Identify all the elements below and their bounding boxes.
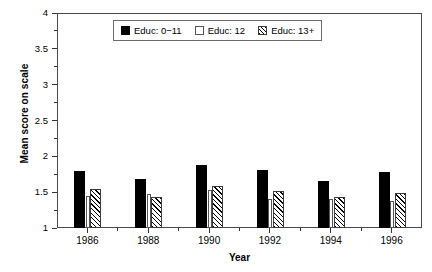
bars-layer	[57, 13, 422, 228]
bar	[90, 189, 101, 228]
bar	[74, 171, 85, 228]
legend-label: Educ: 12	[208, 25, 246, 36]
solid-black-swatch	[121, 26, 130, 35]
bar	[379, 172, 390, 228]
legend-label: Educ: 13+	[271, 25, 314, 36]
legend-entry: Educ: 12	[195, 25, 246, 36]
x-tick-minor-mark	[178, 228, 179, 231]
legend-label: Educ: 0−11	[134, 25, 182, 36]
bar	[147, 194, 151, 228]
x-tick-mark	[148, 228, 149, 233]
x-tick-mark	[269, 228, 270, 233]
bar	[196, 165, 207, 228]
bar	[135, 179, 146, 228]
legend-entry: Educ: 13+	[258, 25, 314, 36]
bar	[86, 196, 90, 228]
x-tick-label: 1988	[118, 235, 178, 247]
y-tick-label: 2	[10, 150, 48, 161]
bar	[273, 191, 284, 228]
x-tick-label: 1996	[362, 235, 422, 247]
x-tick-label: 1986	[57, 235, 117, 247]
chart-legend: Educ: 0−11Educ: 12Educ: 13+	[113, 20, 322, 41]
bar-chart-figure: Mean score on scale 11.522.533.54 198619…	[0, 0, 432, 272]
x-tick-minor-mark	[239, 228, 240, 231]
y-tick-label: 1	[10, 222, 48, 233]
bar	[208, 190, 212, 228]
x-tick-mark	[391, 228, 392, 233]
y-tick-label: 4	[10, 7, 48, 18]
hatched-swatch	[258, 26, 267, 35]
y-tick-label: 1.5	[10, 186, 48, 197]
bar	[268, 199, 272, 228]
x-tick-minor-mark	[300, 228, 301, 231]
y-tick-label: 3.5	[10, 43, 48, 54]
x-tick-label: 1992	[240, 235, 300, 247]
open-white-swatch	[195, 26, 204, 35]
bar	[395, 193, 406, 228]
x-tick-mark	[330, 228, 331, 233]
bar	[334, 197, 345, 228]
x-tick-mark	[87, 228, 88, 233]
x-tick-mark	[209, 228, 210, 233]
bar	[318, 181, 329, 228]
bar	[212, 186, 223, 228]
x-tick-minor-mark	[361, 228, 362, 231]
y-tick-label: 2.5	[10, 115, 48, 126]
y-tick-label: 3	[10, 79, 48, 90]
x-tick-label: 1994	[301, 235, 361, 247]
bar	[257, 170, 268, 228]
x-tick-minor-mark	[117, 228, 118, 231]
x-axis-title: Year	[57, 252, 422, 263]
x-tick-label: 1990	[179, 235, 239, 247]
bar	[329, 199, 333, 228]
bar	[390, 201, 394, 228]
bar	[151, 197, 162, 228]
legend-entry: Educ: 0−11	[121, 25, 182, 36]
